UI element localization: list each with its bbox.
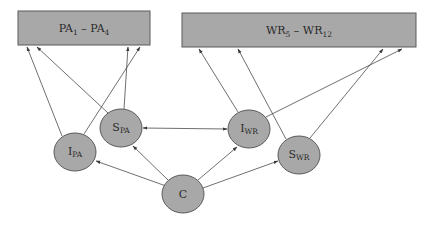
node-s-pa: SPA	[100, 109, 142, 147]
edge-iwr-to-wr-right	[266, 49, 402, 117]
node-s-wr: SWR	[278, 136, 320, 174]
box-pa-label: PA1 – PA4	[59, 22, 110, 37]
edge-ipa-to-pa-left	[27, 47, 62, 136]
agent-interaction-diagram: PA1 – PA4 WR5 – WR12 IPA SPA C IWR SWR	[0, 0, 432, 227]
node-c-label: C	[179, 188, 187, 201]
edge-c-to-swr	[203, 161, 278, 188]
edge-iwr-to-wr-left	[199, 49, 238, 112]
edge-c-to-iwr	[198, 147, 237, 180]
box-pa-group: PA1 – PA4	[18, 11, 150, 45]
node-i-wr: IWR	[228, 110, 270, 148]
node-c: C	[162, 175, 204, 213]
edge-c-to-ipa	[96, 161, 166, 186]
edge-spa-to-pa-left	[37, 47, 108, 113]
box-wr-label: WR5 – WR12	[266, 24, 332, 39]
box-wr-group: WR5 – WR12	[182, 13, 416, 47]
node-i-pa: IPA	[54, 133, 96, 171]
edge-spa-iwr-bidirectional	[143, 128, 227, 129]
edge-c-to-spa	[133, 146, 168, 180]
edge-spa-to-pa-right	[124, 47, 128, 109]
edge-swr-to-wr-right	[310, 49, 383, 138]
